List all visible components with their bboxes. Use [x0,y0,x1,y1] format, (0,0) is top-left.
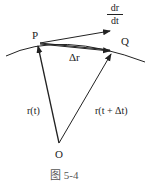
label-r-t: r(t) [27,106,40,116]
figure-caption: 图 5-4 [50,170,78,181]
label-p: P [32,30,38,41]
diagram-canvas [0,0,146,184]
label-origin: O [55,149,63,160]
label-r-t-dt: r(t + Δt) [95,106,128,116]
position-vector-r-t [38,46,59,143]
label-q: Q [121,36,129,47]
arc-pq [40,43,110,50]
tangent-vector [40,31,110,43]
position-vector-r-t-dt [59,54,111,143]
label-delta-r: Δr [69,52,80,63]
label-deriv-den: dt [108,16,122,26]
label-deriv-num: dr [108,3,122,13]
